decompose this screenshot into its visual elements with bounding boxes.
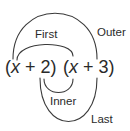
close-paren: ) [51,57,57,77]
binomial-factor-2: (x + 3) [63,57,115,77]
operator: + [78,57,99,77]
first-label: First [35,28,57,41]
constant: 2 [41,57,51,77]
foil-diagram: (x + 2) (x + 3) Outer First Inner Last [0,0,130,131]
inner-label: Inner [50,95,76,108]
inner-arc [44,79,73,93]
binomial-factor-1: (x + 2) [5,57,57,77]
close-paren: ) [109,57,115,77]
variable: x [11,57,20,77]
constant: 3 [99,57,109,77]
variable: x [69,57,78,77]
operator: + [20,57,41,77]
outer-label: Outer [97,26,126,39]
last-label: Last [91,113,113,126]
